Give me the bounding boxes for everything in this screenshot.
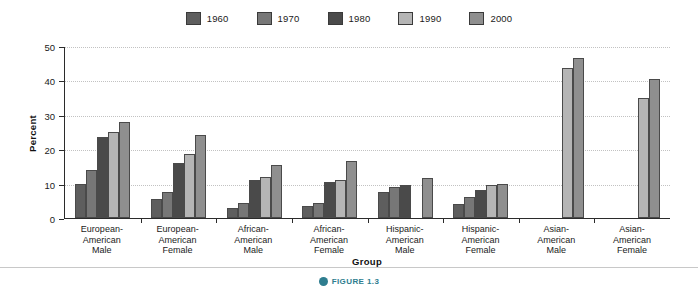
y-tick-50: [59, 47, 64, 48]
bar-2000: [195, 135, 206, 218]
bar-1990: [486, 185, 497, 218]
x-axis-category-label: Hispanic-AmericanFemale: [443, 224, 519, 256]
x-axis-category-label: European-AmericanMale: [64, 224, 140, 256]
y-axis-title: Percent: [14, 47, 51, 219]
bar-2000: [346, 161, 357, 218]
legend-swatch-1960: [186, 12, 201, 25]
chart-legend: 1960 1970 1980 1990 2000: [0, 12, 698, 25]
y-tick-10: [59, 185, 64, 186]
x-axis-group-tick: [368, 218, 369, 223]
bar-1960: [378, 192, 389, 218]
bar-1960: [302, 206, 313, 218]
bar-2000: [497, 184, 508, 218]
bar-group: [65, 47, 141, 218]
bar-1990: [108, 132, 119, 218]
bar-1960: [227, 208, 238, 218]
x-axis-category-label: European-AmericanFemale: [140, 224, 216, 256]
bar-1980: [173, 163, 184, 218]
bar-1990: [335, 180, 346, 218]
bar-2000: [649, 79, 660, 218]
bar-1990: [260, 177, 271, 218]
bar-1980: [400, 185, 411, 218]
x-axis-category-labels: European-AmericanMaleEuropean-AmericanFe…: [64, 224, 670, 256]
bar-1960: [151, 199, 162, 218]
x-axis-group-tick: [216, 218, 217, 223]
bar-group: [519, 47, 595, 218]
legend-label-1990: 1990: [419, 14, 441, 24]
bar-1980: [249, 180, 260, 218]
figure-caption: FIGURE 1.3: [0, 268, 698, 295]
y-tick-label-40: 40: [44, 76, 55, 87]
bar-group: [594, 47, 670, 218]
y-tick-label-30: 30: [44, 110, 55, 121]
bar-2000: [271, 165, 282, 218]
legend-label-1960: 1960: [207, 14, 229, 24]
x-axis-group-tick: [594, 218, 595, 223]
y-tick-0: [59, 219, 64, 220]
bar-1970: [86, 170, 97, 218]
bar-1990: [562, 68, 573, 218]
x-axis-category-label: Asian-AmericanFemale: [594, 224, 670, 256]
x-axis-category-label: Asian-AmericanMale: [519, 224, 595, 256]
bar-2000: [573, 58, 584, 218]
x-axis-group-tick: [141, 218, 142, 223]
figure-caption-text: FIGURE 1.3: [332, 277, 380, 286]
y-tick-label-20: 20: [44, 145, 55, 156]
bar-1970: [313, 203, 324, 218]
bar-group: [141, 47, 217, 218]
y-axis-title-text: Percent: [27, 115, 38, 152]
bar-chart: 1960 1970 1980 1990 2000 Percent 0102030…: [0, 0, 698, 268]
bar-1970: [162, 192, 173, 218]
y-tick-label-0: 0: [50, 214, 55, 225]
x-axis-title: Group: [64, 256, 670, 267]
bar-1960: [75, 184, 86, 218]
y-tick-label-50: 50: [44, 42, 55, 53]
bar-group: [292, 47, 368, 218]
bar-2000: [119, 122, 130, 218]
x-axis-group-tick: [292, 218, 293, 223]
bar-1970: [238, 203, 249, 218]
bar-group: [368, 47, 444, 218]
bar-1970: [464, 197, 475, 218]
legend-label-1980: 1980: [349, 14, 371, 24]
x-axis-category-label: Hispanic-AmericanMale: [367, 224, 443, 256]
y-tick-20: [59, 150, 64, 151]
bar-1980: [475, 190, 486, 218]
bar-groups: [65, 47, 670, 218]
bar-1970: [389, 187, 400, 218]
legend-label-1970: 1970: [278, 14, 300, 24]
legend-swatch-1980: [328, 12, 343, 25]
legend-item-1960: 1960: [186, 12, 229, 25]
y-tick-label-10: 10: [44, 179, 55, 190]
bar-1990: [638, 98, 649, 218]
legend-item-1970: 1970: [257, 12, 300, 25]
bar-group: [443, 47, 519, 218]
bar-1960: [453, 204, 464, 218]
legend-swatch-1990: [398, 12, 413, 25]
figure-marker-icon: [319, 277, 328, 286]
y-tick-40: [59, 81, 64, 82]
bar-1990: [184, 154, 195, 218]
y-tick-30: [59, 116, 64, 117]
legend-item-1990: 1990: [398, 12, 441, 25]
x-axis-group-tick: [519, 218, 520, 223]
bar-2000: [422, 178, 433, 218]
bar-group: [216, 47, 292, 218]
bar-1980: [324, 182, 335, 218]
legend-swatch-1970: [257, 12, 272, 25]
x-axis-category-label: African-AmericanMale: [216, 224, 292, 256]
legend-item-1980: 1980: [328, 12, 371, 25]
legend-label-2000: 2000: [490, 14, 512, 24]
legend-swatch-2000: [469, 12, 484, 25]
bar-1980: [97, 137, 108, 218]
x-axis-category-label: African-AmericanFemale: [291, 224, 367, 256]
x-axis-group-tick: [443, 218, 444, 223]
plot-area: 01020304050: [64, 47, 670, 219]
legend-item-2000: 2000: [469, 12, 512, 25]
